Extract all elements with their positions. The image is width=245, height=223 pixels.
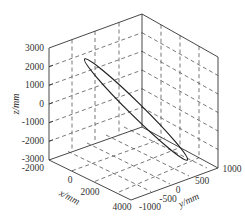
x-tick-2000: 2000: [81, 187, 100, 197]
x-axis-label: x/mm: [57, 186, 82, 206]
y-tick-neg1000: -1000: [139, 202, 161, 212]
y-tick-neg500: -500: [159, 194, 177, 204]
y-tick-500: 500: [195, 176, 210, 186]
y-tick-0: 0: [176, 185, 181, 195]
grid-lines: [49, 23, 218, 193]
z-tick-labels: 3000 2000 1000 0 -1000 -2000 -3000: [22, 43, 44, 164]
x-tick-0: 0: [68, 175, 73, 185]
z-tick-2000: 2000: [25, 62, 44, 72]
box-edges: [49, 14, 218, 200]
x-tick-4000: 4000: [113, 202, 132, 212]
z-tick-0: 0: [39, 99, 44, 109]
z-tick-3000: 3000: [25, 43, 44, 53]
z-tick-1000: 1000: [25, 80, 44, 90]
x-tick-neg2000: -2000: [22, 163, 44, 173]
z-tick-neg2000: -2000: [22, 136, 44, 146]
y-tick-1000: 1000: [223, 164, 242, 174]
z-tick-neg1000: -1000: [22, 117, 44, 127]
z-ticks: [49, 65, 53, 141]
z-axis-label: z/mm: [10, 93, 21, 115]
3d-line-chart: 3000 2000 1000 0 -1000 -2000 -3000 z/mm …: [0, 0, 245, 223]
